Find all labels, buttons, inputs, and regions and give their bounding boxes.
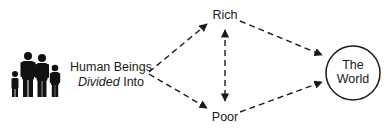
adult-figure-icon bbox=[21, 52, 36, 97]
source-label-line1: Human Beings bbox=[70, 60, 152, 74]
world-label-line1: The bbox=[342, 58, 364, 72]
diagram-canvas: Human Beings Divided Into Rich Poor The … bbox=[0, 0, 390, 130]
node-poor: Poor bbox=[212, 110, 238, 124]
edge-poor-to-world bbox=[240, 82, 322, 112]
node-rich: Rich bbox=[212, 8, 237, 22]
edge-human-to-rich bbox=[149, 24, 207, 72]
child-figure-icon bbox=[50, 65, 60, 97]
node-the-world: The World bbox=[326, 46, 380, 100]
edge-rich-to-world bbox=[240, 21, 322, 55]
adult-figure-icon bbox=[35, 54, 49, 97]
divided-italic-text: Divided bbox=[78, 75, 121, 89]
family-people-icon bbox=[12, 52, 61, 97]
child-figure-icon bbox=[12, 71, 19, 97]
into-text: Into bbox=[120, 75, 144, 89]
world-label-line2: World bbox=[337, 72, 369, 86]
edge-human-to-poor bbox=[149, 74, 207, 108]
source-label-line2: Divided Into bbox=[78, 75, 144, 89]
